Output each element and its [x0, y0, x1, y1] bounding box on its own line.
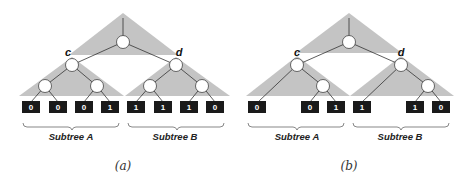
root-node	[117, 36, 130, 49]
caption-b: (b)	[340, 159, 357, 173]
subtree-b-label: Subtree B	[378, 131, 423, 142]
inner-node	[91, 80, 104, 93]
node-c	[66, 59, 79, 72]
root-node	[343, 36, 356, 49]
leaf-value: 0	[439, 103, 444, 112]
leaf-value: 0	[255, 103, 260, 112]
node-label-d: d	[398, 46, 405, 58]
subtree-b-brace	[128, 123, 224, 130]
panel-a: c d 0 0 0 1 1 1 1 0 Subtree A Subtree B …	[19, 13, 230, 173]
subtree-b-label: Subtree B	[153, 131, 198, 142]
leaf-value: 0	[308, 103, 313, 112]
subtree-a-brace	[248, 123, 344, 130]
leaf-row: 0 0 1 1 1 0	[248, 101, 450, 113]
leaf-value: 0	[56, 103, 61, 112]
leaf-value: 1	[108, 103, 113, 112]
subtree-a-brace	[23, 123, 119, 130]
subtree-b-brace	[353, 123, 449, 130]
leaf-value: 1	[413, 103, 418, 112]
inner-node	[317, 80, 330, 93]
leaf-value: 1	[161, 103, 166, 112]
inner-node	[39, 80, 52, 93]
node-label-c: c	[294, 46, 300, 58]
leaf-value: 0	[213, 103, 218, 112]
inner-node	[422, 80, 435, 93]
node-label-c: c	[65, 46, 71, 58]
panel-b: c d 0 0 1 1 1 0 Subtree A Subtree B (b)	[246, 13, 454, 173]
inner-node	[144, 80, 157, 93]
node-d	[395, 59, 408, 72]
node-c	[291, 59, 304, 72]
leaf-value: 0	[82, 103, 87, 112]
subtree-a-label: Subtree A	[275, 131, 320, 142]
leaf-value: 1	[134, 103, 139, 112]
caption-a: (a)	[115, 159, 132, 173]
leaf-row: 0 0 0 1 1 1 1 0	[22, 101, 224, 113]
inner-node	[196, 80, 209, 93]
leaf-value: 1	[187, 103, 192, 112]
leaf-value: 1	[334, 103, 339, 112]
node-label-d: d	[176, 46, 183, 58]
node-d	[170, 59, 183, 72]
subtree-a-label: Subtree A	[49, 131, 94, 142]
leaf-value: 0	[29, 103, 34, 112]
tree-diagram-figure: c d 0 0 0 1 1 1 1 0 Subtree A Subtree B …	[0, 0, 467, 186]
leaf-value: 1	[360, 103, 365, 112]
